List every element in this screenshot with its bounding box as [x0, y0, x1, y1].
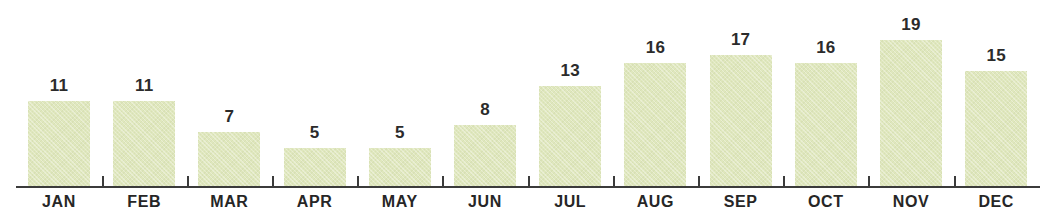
x-axis-tick — [954, 176, 956, 186]
bar-value-label: 16 — [646, 39, 665, 56]
bar-value-label: 19 — [901, 16, 920, 33]
bar-group[interactable]: 11 — [28, 77, 90, 186]
x-axis-category-label: DEC — [953, 191, 1039, 213]
x-axis-category-label: MAY — [357, 191, 443, 213]
bar-value-label: 17 — [731, 31, 750, 48]
x-axis-category-label: FEB — [101, 191, 187, 213]
bar[interactable] — [198, 132, 260, 186]
x-axis-tick — [698, 176, 700, 186]
x-axis-tick — [442, 176, 444, 186]
bar-group[interactable]: 11 — [113, 77, 175, 186]
bar-value-label: 5 — [310, 124, 320, 141]
x-axis-category-label: AUG — [612, 191, 698, 213]
x-axis-category-label: JUN — [442, 191, 528, 213]
bar-value-label: 11 — [50, 77, 68, 94]
bar[interactable] — [284, 148, 346, 186]
bar[interactable] — [795, 63, 857, 186]
bar[interactable] — [28, 101, 90, 186]
x-axis-tick — [868, 176, 870, 186]
x-axis-tick — [357, 176, 359, 186]
bar[interactable] — [710, 55, 772, 186]
bar[interactable] — [539, 86, 601, 186]
bar-group[interactable]: 19 — [880, 16, 942, 186]
x-axis-line — [16, 186, 1040, 188]
x-axis-category-label: APR — [272, 191, 358, 213]
bar[interactable] — [454, 125, 516, 186]
bar-group[interactable]: 5 — [369, 124, 431, 186]
x-axis-tick — [272, 176, 274, 186]
plot-area: 11117558131617161915 — [0, 0, 1052, 216]
bar[interactable] — [369, 148, 431, 186]
bar-value-label: 15 — [987, 47, 1006, 64]
bar-group[interactable]: 5 — [284, 124, 346, 186]
bar-value-label: 7 — [225, 108, 235, 125]
bar[interactable] — [880, 40, 942, 186]
bar-value-label: 13 — [561, 62, 580, 79]
bar-group[interactable]: 15 — [965, 47, 1027, 186]
bar-value-label: 16 — [816, 39, 835, 56]
x-axis-category-label: SEP — [698, 191, 784, 213]
bar-value-label: 8 — [480, 101, 490, 118]
x-axis-tick — [613, 176, 615, 186]
bar-group[interactable]: 7 — [198, 108, 260, 186]
bar-value-label: 5 — [395, 124, 405, 141]
x-axis-category-label: NOV — [868, 191, 954, 213]
bar-group[interactable]: 16 — [795, 39, 857, 186]
x-axis-tick — [102, 176, 104, 186]
x-axis-category-label: JAN — [16, 191, 102, 213]
bar[interactable] — [113, 101, 175, 186]
x-axis-category-label: MAR — [186, 191, 272, 213]
bar-group[interactable]: 17 — [710, 31, 772, 186]
x-axis-category-label: JUL — [527, 191, 613, 213]
bar-group[interactable]: 8 — [454, 101, 516, 186]
bar-chart: 11117558131617161915 JANFEBMARAPRMAYJUNJ… — [0, 0, 1052, 216]
x-axis-tick — [187, 176, 189, 186]
bar-group[interactable]: 13 — [539, 62, 601, 186]
bar-value-label: 11 — [135, 77, 153, 94]
x-axis-tick — [528, 176, 530, 186]
bar[interactable] — [624, 63, 686, 186]
x-axis-tick — [783, 176, 785, 186]
x-axis-category-label: OCT — [783, 191, 869, 213]
bar[interactable] — [965, 71, 1027, 186]
bar-group[interactable]: 16 — [624, 39, 686, 186]
